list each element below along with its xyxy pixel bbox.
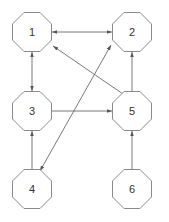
graph-diagram: 1 2 3 5 4 6 bbox=[0, 0, 169, 222]
node-2: 2 bbox=[113, 13, 152, 52]
edge-5-1 bbox=[53, 46, 123, 94]
node-5: 5 bbox=[113, 92, 152, 131]
node-label: 5 bbox=[129, 105, 135, 117]
node-label: 4 bbox=[29, 183, 35, 195]
node-label: 6 bbox=[129, 183, 135, 195]
node-4: 4 bbox=[13, 170, 52, 209]
node-6: 6 bbox=[113, 170, 152, 209]
node-3: 3 bbox=[13, 92, 52, 131]
node-1: 1 bbox=[13, 13, 52, 52]
node-label: 1 bbox=[29, 26, 35, 38]
graph-svg: 1 2 3 5 4 6 bbox=[0, 0, 169, 222]
node-label: 3 bbox=[29, 105, 35, 117]
node-label: 2 bbox=[129, 26, 135, 38]
